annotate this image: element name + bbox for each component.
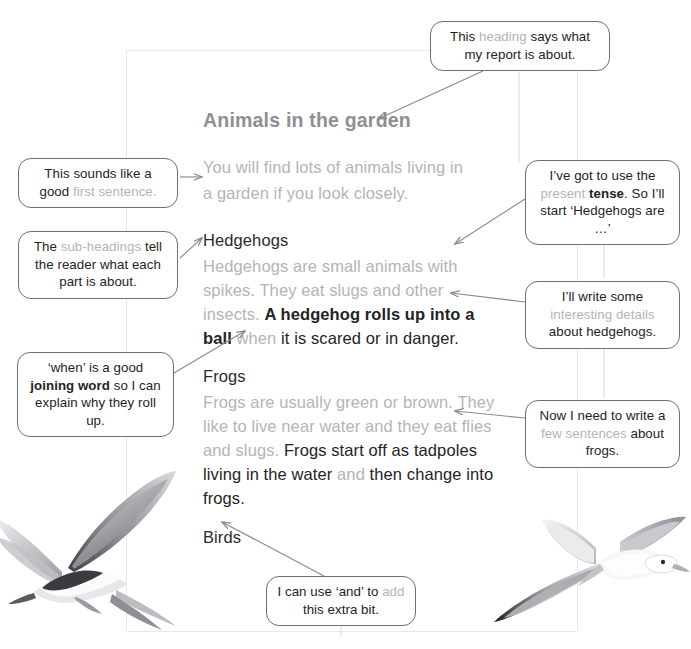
- callout-interesting-details[interactable]: I’ll write some interesting details abou…: [525, 281, 680, 349]
- callout-heading-highlight: heading: [479, 29, 527, 44]
- callout-and-part2: this extra bit.: [303, 602, 379, 617]
- intro-line-2: a garden if you look closely.: [203, 181, 515, 207]
- section-frogs: Frogs Frogs are usually green or brown. …: [203, 364, 503, 510]
- callout-heading-part1: This: [450, 29, 479, 44]
- cropped-header-text: [0, 0, 691, 5]
- callout-frogs-highlight: few sentences: [541, 426, 627, 441]
- sub-heading-frogs: Frogs: [203, 364, 503, 388]
- callout-tense-highlight: present: [541, 186, 589, 201]
- section-hedgehogs: Hedgehogs Hedgehogs are small animals wi…: [203, 228, 503, 350]
- callout-details-part1: I’ll write some: [562, 289, 643, 304]
- page-title: Animals in the garden: [203, 108, 513, 132]
- callout-and-part1: I can use ‘and’ to: [277, 584, 382, 599]
- flying-seagull-image: [492, 502, 691, 630]
- callout-first-highlight: first sentence.: [73, 184, 157, 199]
- callout-few-sentences[interactable]: Now I need to write a few sentences abou…: [525, 400, 680, 468]
- report-body: Animals in the garden: [203, 108, 513, 150]
- flying-tern-image: [0, 466, 182, 634]
- callout-sub-part1: The: [34, 239, 61, 254]
- callout-joining-bold: joining word: [30, 378, 110, 393]
- callout-details-highlight: interesting details: [550, 307, 654, 322]
- tern-icon: [0, 466, 182, 634]
- section-birds: Birds: [203, 525, 403, 551]
- frogs-paragraph: Frogs are usually green or brown. They l…: [203, 390, 503, 510]
- seagull-icon: [492, 502, 691, 630]
- intro-line-1: You will find lots of animals living in: [203, 155, 515, 181]
- callout-joining-word[interactable]: ‘when’ is a good joining word so I can e…: [17, 352, 174, 437]
- intro-paragraph: You will find lots of animals living in …: [203, 155, 515, 206]
- callout-extra-bit[interactable]: I can use ‘and’ to add this extra bit.: [266, 576, 416, 626]
- worksheet-canvas: Animals in the garden You will find lots…: [0, 0, 691, 649]
- callout-tense-part1: I’ve got to use the: [550, 168, 656, 183]
- callout-first-sentence[interactable]: This sounds like a good first sentence.: [18, 158, 178, 208]
- callout-frogs-part1: Now I need to write a: [540, 408, 666, 423]
- callout-sub-highlight: sub-headings: [61, 239, 141, 254]
- callout-present-tense[interactable]: I’ve got to use the present tense. So I’…: [525, 160, 680, 245]
- hedgehogs-paragraph: Hedgehogs are small animals with spikes.…: [203, 254, 503, 350]
- callout-joining-part1: ‘when’ is a good: [48, 360, 144, 375]
- callout-details-part2: about hedgehogs.: [549, 324, 656, 339]
- callout-and-highlight: add: [382, 584, 404, 599]
- sub-heading-hedgehogs: Hedgehogs: [203, 228, 503, 252]
- callout-tense-bold: tense: [589, 186, 624, 201]
- sub-heading-birds: Birds: [203, 525, 403, 549]
- callout-heading[interactable]: This heading says what my report is abou…: [430, 21, 610, 71]
- frogs-joining-word: and: [332, 465, 369, 483]
- hedgehogs-joining-word: when: [232, 329, 281, 347]
- callout-sub-headings[interactable]: The sub-headings tell the reader what ea…: [18, 231, 178, 299]
- hedgehogs-dark-tail: it is scared or in danger.: [281, 329, 459, 347]
